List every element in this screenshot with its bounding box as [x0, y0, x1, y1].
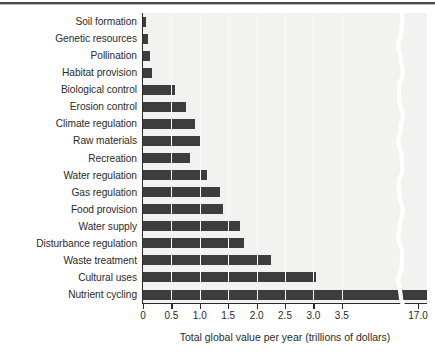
gridline	[285, 13, 286, 303]
bar	[143, 119, 195, 129]
x-tick	[228, 304, 229, 309]
x-tick-label: 1.5	[221, 310, 235, 321]
x-tick	[285, 304, 286, 309]
x-tick	[418, 304, 419, 309]
category-label: Disturbance regulation	[18, 235, 140, 252]
category-label: Waste treatment	[18, 252, 140, 269]
plot-inner	[143, 13, 427, 303]
bar	[143, 51, 150, 61]
category-label: Nutrient cycling	[18, 286, 140, 303]
bar	[143, 272, 316, 282]
bar	[143, 255, 271, 265]
x-tick	[200, 304, 201, 309]
x-tick-label: 0.5	[164, 310, 178, 321]
x-tick-label: 3.0	[306, 310, 320, 321]
x-tick	[313, 304, 314, 309]
x-tick-label: 0	[140, 310, 146, 321]
bar	[143, 102, 186, 112]
category-label: Food provision	[18, 201, 140, 218]
y-axis-spine	[142, 13, 143, 304]
x-tick	[342, 304, 343, 309]
gridline	[313, 13, 314, 303]
x-tick	[257, 304, 258, 309]
bar	[143, 17, 146, 27]
category-label: Climate regulation	[18, 115, 140, 132]
x-tick-label: 2.0	[250, 310, 264, 321]
x-tick	[171, 304, 172, 309]
category-label: Water supply	[18, 218, 140, 235]
category-label: Gas regulation	[18, 184, 140, 201]
category-label: Recreation	[18, 150, 140, 167]
category-label: Erosion control	[18, 98, 140, 115]
gridline	[171, 13, 172, 303]
plot-area	[143, 13, 427, 303]
category-label: Cultural uses	[18, 269, 140, 286]
bar	[143, 204, 223, 214]
gridline	[228, 13, 229, 303]
category-label: Genetic resources	[18, 30, 140, 47]
category-label: Water regulation	[18, 167, 140, 184]
top-rule-secondary	[0, 4, 435, 5]
category-label-column: Soil formationGenetic resourcesPollinati…	[18, 13, 140, 303]
x-axis-title: Total global value per year (trillions o…	[143, 331, 427, 343]
category-label: Raw materials	[18, 132, 140, 149]
x-tick-label: 3.5	[335, 310, 349, 321]
bar	[143, 34, 148, 44]
bar	[143, 85, 175, 95]
bar	[143, 221, 240, 231]
category-label: Soil formation	[18, 13, 140, 30]
x-tick-label: 17.0	[408, 310, 427, 321]
bar	[143, 187, 220, 197]
category-label: Biological control	[18, 81, 140, 98]
bar	[143, 68, 152, 78]
x-tick-label: 2.5	[278, 310, 292, 321]
category-label: Habitat provision	[18, 64, 140, 81]
bar	[143, 170, 207, 180]
gridline	[342, 13, 343, 303]
x-tick	[143, 304, 144, 309]
bar	[143, 153, 190, 163]
gridline	[200, 13, 201, 303]
ecosystem-service-value-bar-chart: Type of ecosystem service Soil formation…	[0, 0, 435, 355]
x-tick-label: 1.0	[193, 310, 207, 321]
gridline	[257, 13, 258, 303]
category-label: Pollination	[18, 47, 140, 64]
